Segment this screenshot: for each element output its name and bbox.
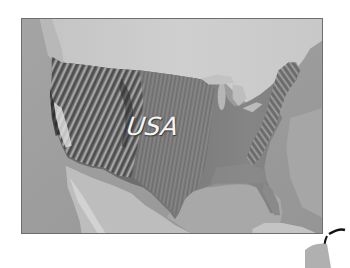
country-label: USA	[125, 114, 180, 139]
partial-object-corner	[305, 228, 350, 268]
lake-michigan	[218, 82, 226, 110]
